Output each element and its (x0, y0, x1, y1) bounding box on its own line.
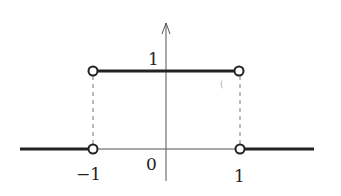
open-point-neg-one-bottom (89, 145, 98, 154)
step-function-plot: 1 0 −1 1 ( (0, 0, 341, 196)
stray-mark: ( (220, 79, 224, 89)
open-point-pos-one-bottom (236, 145, 245, 154)
x-tick-label-neg-one: −1 (76, 164, 101, 184)
x-tick-label-one: 1 (234, 166, 245, 186)
origin-label: 0 (146, 154, 157, 174)
open-point-pos-one-top (235, 67, 244, 76)
y-tick-label-one: 1 (148, 49, 159, 69)
open-point-neg-one-top (89, 67, 98, 76)
